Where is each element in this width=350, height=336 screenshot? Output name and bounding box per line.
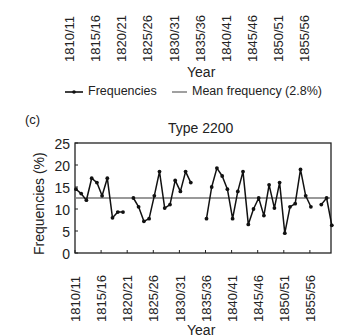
data-point-marker (236, 190, 240, 194)
x-tick-label: 1810/11 (68, 276, 83, 322)
x-tick-label: 1835/36 (199, 275, 214, 322)
data-point-marker (105, 176, 109, 180)
data-point-marker (121, 210, 125, 214)
data-point-marker (283, 231, 287, 235)
data-point-marker (215, 166, 219, 170)
data-point-marker (257, 196, 261, 200)
data-point-marker (90, 176, 94, 180)
x-tick-label: 1820/21 (120, 275, 135, 322)
data-point-marker (163, 206, 167, 210)
x-tick-label: 1850/51 (277, 275, 292, 322)
data-point-marker (85, 198, 89, 202)
data-point-marker (231, 217, 235, 221)
data-point-marker (116, 210, 120, 214)
x-tick-label: 1830/31 (173, 275, 188, 322)
data-point-marker (173, 179, 177, 183)
data-point-marker (111, 216, 115, 220)
data-point-marker (184, 170, 188, 174)
data-point-marker (262, 214, 266, 218)
x-tick-label: 1845/46 (251, 275, 266, 322)
data-point-marker (95, 181, 99, 185)
data-point-marker (210, 185, 214, 189)
data-point-marker (252, 207, 256, 211)
data-point-marker (273, 206, 277, 210)
x-axis-label: Year (187, 322, 215, 336)
data-point-marker (179, 190, 183, 194)
frequency-line-segment (321, 198, 332, 225)
data-point-marker (241, 170, 245, 174)
data-point-marker (137, 205, 141, 209)
data-point-marker (100, 194, 104, 198)
data-point-marker (142, 219, 146, 223)
data-point-marker (147, 217, 151, 221)
data-point-marker (330, 223, 334, 227)
data-point-marker (158, 170, 162, 174)
data-point-marker (79, 192, 83, 196)
data-point-marker (152, 194, 156, 198)
x-tick-label: 1825/26 (146, 275, 161, 322)
data-point-marker (278, 181, 282, 185)
data-point-marker (325, 196, 329, 200)
data-point-marker (267, 183, 271, 187)
x-tick-label: 1815/16 (94, 275, 109, 322)
data-point-marker (189, 181, 193, 185)
data-point-marker (74, 187, 78, 191)
data-point-marker (246, 223, 250, 227)
data-point-marker (299, 168, 303, 172)
data-point-marker (205, 217, 209, 221)
data-point-marker (132, 196, 136, 200)
data-point-marker (168, 203, 172, 207)
data-point-marker (293, 202, 297, 206)
frequency-line-segment (133, 172, 190, 222)
data-point-marker (304, 194, 308, 198)
data-point-marker (226, 187, 230, 191)
x-tick-label: 1840/41 (225, 275, 240, 322)
x-tick-label: 1855/56 (303, 275, 318, 322)
data-point-marker (220, 174, 224, 178)
data-point-marker (288, 205, 292, 209)
data-point-marker (319, 203, 323, 207)
data-point-marker (309, 205, 313, 209)
